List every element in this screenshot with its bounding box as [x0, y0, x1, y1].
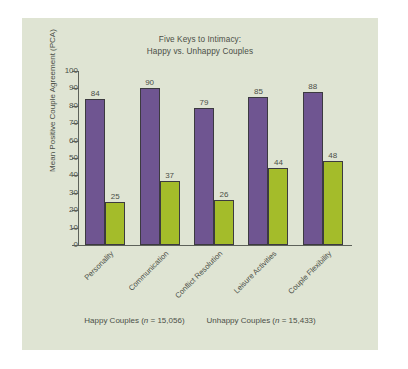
bar-happy[interactable]: 85: [248, 97, 268, 245]
bar-value-label: 44: [274, 158, 283, 167]
bar-value-label: 88: [308, 82, 317, 91]
bar-value-label: 25: [111, 192, 120, 201]
bar-value-label: 85: [254, 87, 263, 96]
bar-unhappy[interactable]: 48: [323, 161, 343, 245]
bar-unhappy[interactable]: 37: [160, 181, 180, 245]
bar-happy[interactable]: 88: [303, 92, 323, 245]
bar-happy[interactable]: 84: [85, 99, 105, 245]
x-category-label: Communication: [126, 249, 170, 293]
x-category-label: Personality: [83, 249, 116, 282]
legend-entry-happy: Happy Couples (n = 15,056): [84, 316, 184, 325]
bar-unhappy[interactable]: 25: [105, 202, 125, 246]
x-category-label: Leisure Activities: [232, 249, 278, 295]
bar-happy[interactable]: 79: [194, 108, 214, 245]
x-category-label: Couple Flexibility: [286, 249, 333, 296]
bar-value-label: 84: [91, 89, 100, 98]
bar-value-label: 79: [200, 98, 209, 107]
bar-unhappy[interactable]: 26: [214, 200, 234, 245]
bar-value-label: 37: [165, 171, 174, 180]
bar-value-label: 48: [328, 151, 337, 160]
bar-value-label: 90: [145, 78, 154, 87]
legend-entry-unhappy: Unhappy Couples (n = 15,433): [207, 316, 316, 325]
chart-panel: Five Keys to Intimacy: Happy vs. Unhappy…: [22, 18, 378, 350]
bar-value-label: 26: [220, 190, 229, 199]
bar-unhappy[interactable]: 44: [268, 168, 288, 245]
plot-area: 84259037792685448848: [78, 71, 350, 245]
x-axis-line: [78, 245, 352, 246]
chart-legend: Happy Couples (n = 15,056)Unhappy Couple…: [22, 316, 378, 325]
x-category-label: Conflict Resolution: [173, 249, 224, 300]
y-axis-ticks: 0102030405060708090100: [22, 18, 78, 350]
bar-happy[interactable]: 90: [140, 88, 160, 245]
